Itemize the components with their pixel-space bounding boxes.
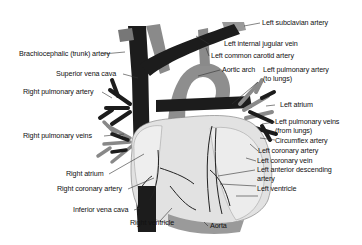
label-left-coronary-artery: Left coronary artery (258, 147, 318, 155)
label-left-coronary-vein: Left coronary vein (257, 157, 312, 165)
label-left-pulmonary-veins-sub: (from lungs) (275, 127, 312, 135)
label-left-subclavian-artery: Left subclavian artery (262, 19, 328, 27)
label-aortic-arch: Aortic arch (222, 66, 255, 74)
label-left-pulmonary-artery-sub: (to lungs) (263, 75, 292, 83)
label-left-internal-jugular-vein: Left internal jugular vein (224, 40, 298, 48)
label-left-pulmonary-veins: Left pulmonary veins (275, 118, 339, 126)
label-left-anterior-descending-artery: Left anterior descending (257, 166, 332, 174)
label-left-common-carotid-artery: Left common carotid artery (211, 52, 294, 60)
label-right-coronary-artery: Right coronary artery (57, 185, 122, 193)
label-left-pulmonary-artery: Left pulmonary artery (263, 66, 329, 74)
label-left-anterior-descending-artery-sub: artery (257, 175, 275, 183)
heart-diagram: Left subclavian artery Brachiocephalic (… (0, 0, 362, 245)
label-right-pulmonary-veins: Right pulmonary veins (23, 132, 92, 140)
label-left-atrium: Left atrium (280, 101, 313, 109)
label-circumflex-artery: Circumflex artery (275, 137, 328, 145)
label-left-ventricle: Left ventricle (257, 185, 296, 193)
label-right-ventricle: Right ventricle (130, 219, 174, 227)
label-brachiocephalic-artery: Brachiocephalic (trunk) artery (19, 50, 110, 58)
label-superior-vena-cava: Superior vena cava (56, 70, 116, 78)
label-right-pulmonary-artery: Right pulmonary artery (23, 88, 94, 96)
label-inferior-vena-cava: Inferior vena cava (73, 206, 128, 214)
label-aorta: Aorta (210, 222, 227, 230)
label-right-atrium: Right atrium (66, 170, 104, 178)
